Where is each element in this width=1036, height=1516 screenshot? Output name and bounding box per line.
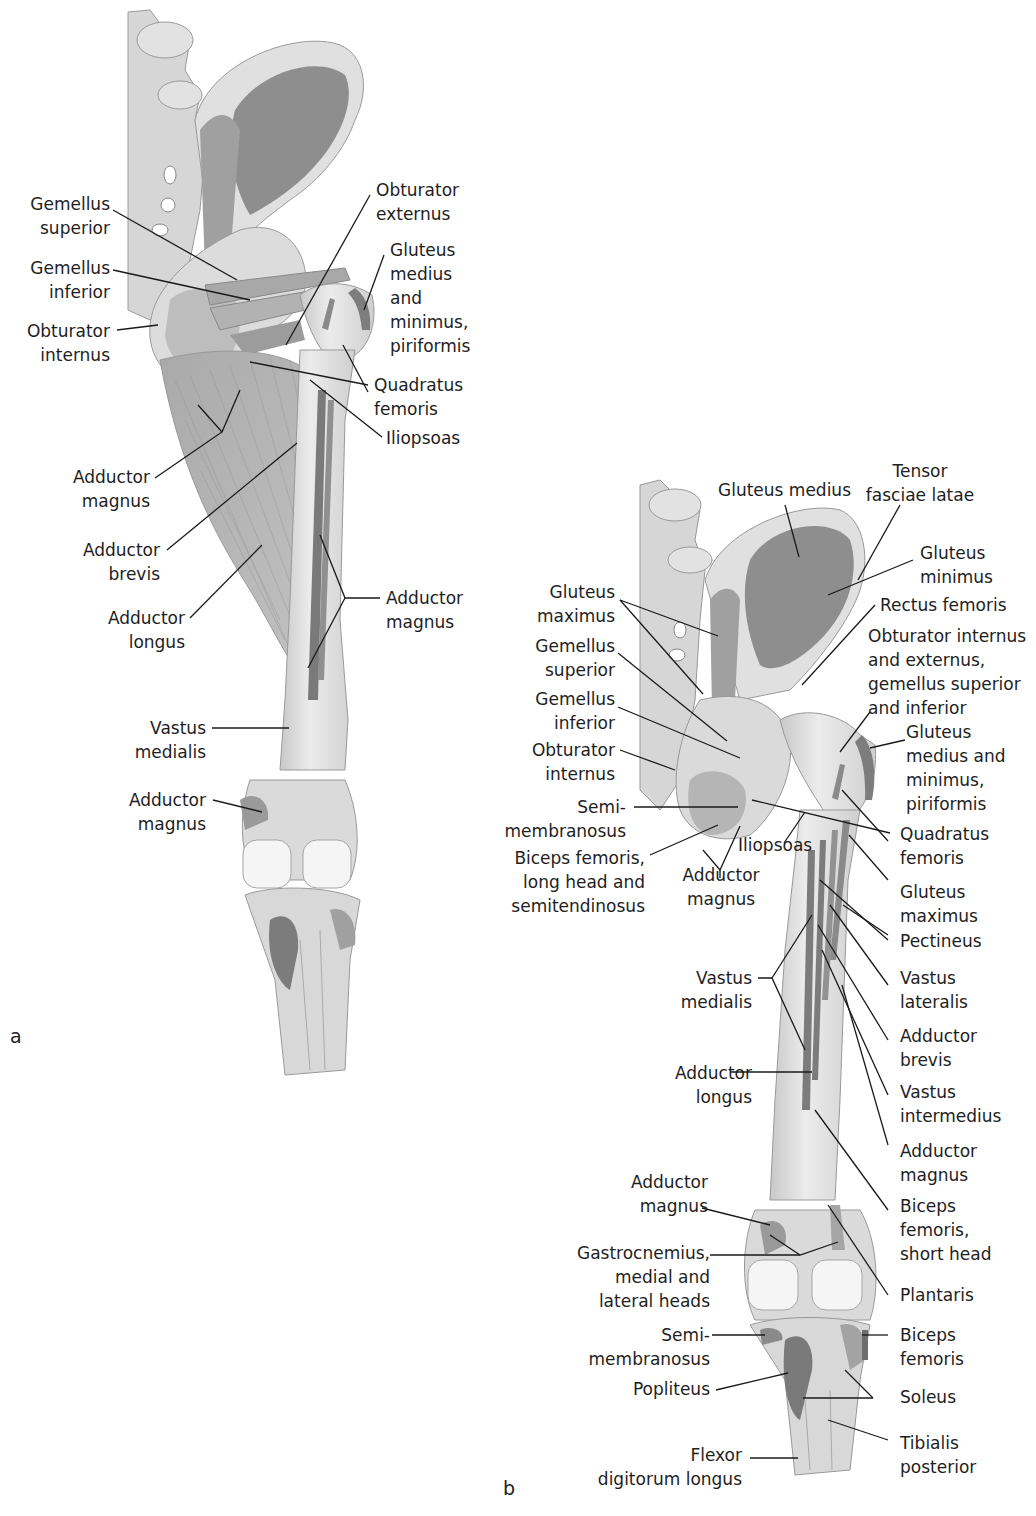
label-iliopsoas-b: Iliopsoas [738, 833, 812, 857]
label-iliopsoas-a: Iliopsoas [386, 426, 460, 450]
panel-a-drawing [128, 10, 374, 1075]
label-vastus-medialis-a: Vastus medialis [100, 716, 206, 764]
label-obturator-int-ext-gemelli-b: Obturator internus and externus, gemellu… [868, 624, 1026, 720]
label-gluteus-maximus-left-b: Gluteus maximus [500, 580, 615, 628]
label-pectineus-b: Pectineus [900, 929, 982, 953]
label-soleus-b: Soleus [900, 1385, 956, 1409]
label-biceps-femoris-b: Biceps femoris [900, 1323, 964, 1371]
label-obturator-externus-a: Obturator externus [376, 178, 459, 226]
label-adductor-magnus-right-a: Adductor magnus [386, 586, 463, 634]
label-vastus-intermedius-b: Vastus intermedius [900, 1080, 1001, 1128]
label-adductor-magnus-lower-a: Adductor magnus [100, 788, 206, 836]
label-quadratus-femoris-a: Quadratus femoris [374, 373, 463, 421]
label-adductor-brevis-b: Adductor brevis [900, 1024, 977, 1072]
label-rectus-femoris-b: Rectus femoris [880, 593, 1007, 617]
label-gemellus-superior-a: Gemellus superior [20, 192, 110, 240]
label-quadratus-femoris-b: Quadratus femoris [900, 822, 989, 870]
label-vastus-medialis-b: Vastus medialis [640, 966, 752, 1014]
label-tibialis-posterior-b: Tibialis posterior [900, 1431, 976, 1479]
label-adductor-brevis-a: Adductor brevis [60, 538, 160, 586]
label-gemellus-superior-b: Gemellus superior [500, 634, 615, 682]
label-adductor-magnus-right-b: Adductor magnus [900, 1139, 977, 1187]
label-obturator-internus-b: Obturator internus [500, 738, 615, 786]
label-gluteus-medius-minimus-piriformis-b: Gluteus medius and minimus, piriformis [906, 720, 1006, 816]
label-gluteus-minimus-b: Gluteus minimus [920, 541, 993, 589]
label-gemellus-inferior-b: Gemellus inferior [500, 687, 615, 735]
label-gemellus-inferior-a: Gemellus inferior [20, 256, 110, 304]
label-gastrocnemius-b: Gastrocnemius, medial and lateral heads [560, 1241, 710, 1313]
label-adductor-magnus-upper-b: Adductor magnus [668, 863, 774, 911]
label-flexor-digitorum-longus-b: Flexor digitorum longus [590, 1443, 742, 1491]
label-adductor-longus-b: Adductor longus [640, 1061, 752, 1109]
label-adductor-magnus-upper-a: Adductor magnus [50, 465, 150, 513]
label-popliteus-b: Popliteus [590, 1377, 710, 1401]
label-semimembranosus-lower-b: Semi- membranosus [570, 1323, 710, 1371]
panel-letter-b: b [503, 1477, 515, 1499]
label-biceps-femoris-long-semitendinosus-b: Biceps femoris, long head and semitendin… [490, 846, 645, 918]
label-gluteus-medius-minimus-piriformis-a: Gluteus medius and minimus, piriformis [390, 238, 470, 358]
label-tensor-fasciae-latae-b: Tensor fasciae latae [862, 459, 978, 507]
label-semimembranosus-upper-b: Semi- membranosus [490, 795, 626, 843]
label-vastus-lateralis-b: Vastus lateralis [900, 966, 968, 1014]
label-gluteus-maximus-right-b: Gluteus maximus [900, 880, 978, 928]
label-adductor-magnus-lower-b: Adductor magnus [596, 1170, 708, 1218]
panel-letter-a: a [10, 1025, 22, 1047]
label-plantaris-b: Plantaris [900, 1283, 974, 1307]
label-gluteus-medius-b: Gluteus medius [718, 478, 851, 502]
label-adductor-longus-a: Adductor longus [85, 606, 185, 654]
label-obturator-internus-a: Obturator internus [10, 319, 110, 367]
label-biceps-femoris-short-head-b: Biceps femoris, short head [900, 1194, 992, 1266]
